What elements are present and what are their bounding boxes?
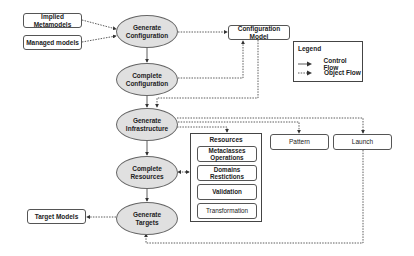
legend-title: Legend <box>298 45 321 52</box>
implied-metamodels-node: Implied Metamodels <box>23 13 82 28</box>
complete-resources-activity: Complete Resources <box>116 156 178 189</box>
resource-item: Domains Restictions <box>197 165 257 181</box>
dotted-arrow-icon <box>298 70 312 76</box>
target-models-node: Target Models <box>27 209 86 224</box>
pattern-node: Pattern <box>270 134 329 150</box>
configuration-model-node: Configuration Model <box>228 25 290 40</box>
generate-infrastructure-activity: Generate Infrastructure <box>116 108 178 141</box>
complete-configuration-activity: Complete Configuration <box>116 63 178 96</box>
legend-object-flow-label: Object Flow <box>324 69 361 76</box>
resources-title: Resources <box>191 136 261 143</box>
legend: Legend Control Flow Object Flow <box>293 41 363 82</box>
generate-configuration-activity: Generate Configuration <box>116 15 178 48</box>
resource-item: Metaclasses Operations <box>197 146 257 162</box>
launch-node: Launch <box>333 134 392 150</box>
solid-arrow-icon <box>298 61 312 67</box>
resource-item: Transformation <box>197 203 257 219</box>
legend-object-flow: Object Flow <box>298 69 361 76</box>
managed-models-node: Managed models <box>23 35 82 50</box>
resources-group: Resources Metaclasses Operations Domains… <box>190 133 262 222</box>
generate-targets-activity: Generate Targets <box>116 202 178 235</box>
resource-item: Validation <box>197 184 257 200</box>
